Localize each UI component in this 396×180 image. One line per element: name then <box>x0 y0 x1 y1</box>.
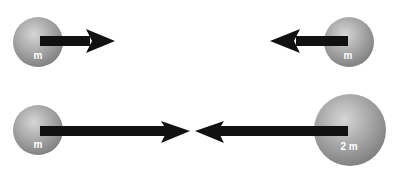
bottom-left-mass-label: m <box>34 139 43 150</box>
top-right-mass-label: m <box>344 50 353 61</box>
bottom-right-mass-label: 2 m <box>340 141 357 152</box>
top-left-mass-label: m <box>34 50 43 61</box>
collision-diagram <box>0 0 396 180</box>
bottom-left-velocity-arrow <box>40 121 190 143</box>
